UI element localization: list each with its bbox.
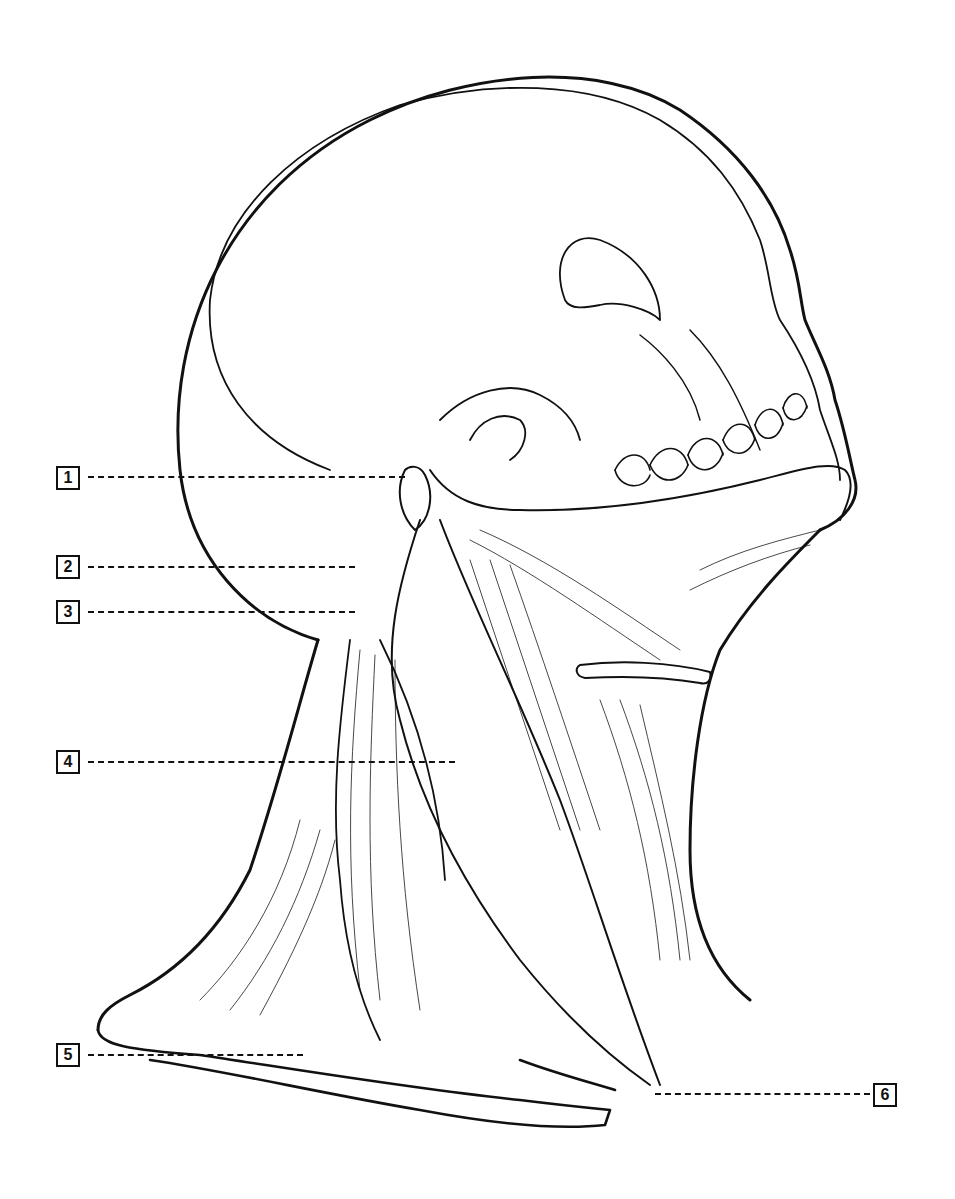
leader-line-6 (655, 1093, 870, 1095)
sternocleidomastoid (392, 520, 660, 1085)
leader-line-1 (88, 476, 405, 478)
neck-front (690, 530, 820, 1000)
label-box-3: 3 (56, 600, 80, 624)
leader-line-4 (88, 761, 455, 763)
zygomatic-arch (440, 388, 580, 460)
label-box-6: 6 (873, 1083, 897, 1107)
neck-back (98, 640, 318, 1030)
skull-outline (210, 88, 840, 480)
leader-line-2 (88, 566, 355, 568)
label-box-2: 2 (56, 555, 80, 579)
leader-line-5 (88, 1054, 303, 1056)
clavicle (98, 1030, 615, 1127)
label-box-4: 4 (56, 750, 80, 774)
head-outline (178, 77, 856, 640)
hyoid (577, 662, 711, 683)
teeth (615, 394, 807, 486)
label-box-1: 1 (56, 466, 80, 490)
mandible (430, 466, 850, 520)
orbit (560, 238, 660, 320)
label-box-5: 5 (56, 1043, 80, 1067)
neck-anatomy-illustration (0, 0, 955, 1199)
leader-line-3 (88, 611, 355, 613)
